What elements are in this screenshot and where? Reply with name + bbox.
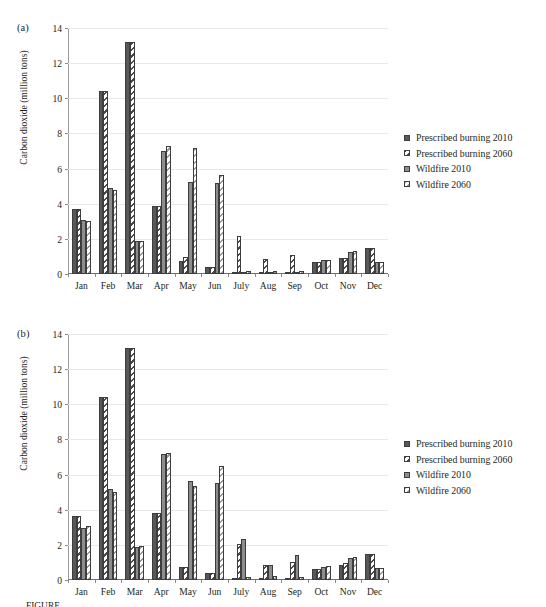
legend-swatch-icon — [404, 181, 410, 187]
y-axis-tick-label: 14 — [52, 23, 62, 34]
x-axis-tick-mark — [201, 274, 202, 277]
x-axis-tick-label: May — [179, 586, 197, 597]
bar — [166, 146, 171, 274]
x-axis-tick-label: Feb — [101, 586, 115, 597]
bar-group — [259, 334, 278, 580]
x-axis-tick-mark — [228, 580, 229, 583]
x-axis-tick-mark — [308, 580, 309, 583]
bar — [139, 546, 144, 580]
x-axis-tick-label: Oct — [314, 280, 328, 291]
x-axis-tick-label: Aug — [260, 586, 277, 597]
bar-group — [259, 28, 278, 274]
bar — [326, 260, 331, 274]
y-axis-tick-label: 10 — [52, 93, 62, 104]
bar-group — [99, 334, 118, 580]
legend-item[interactable]: Prescribed burning 2060 — [404, 452, 512, 468]
bars-layer-a — [68, 28, 388, 274]
bar — [379, 262, 384, 274]
bar — [219, 466, 224, 580]
bar — [130, 42, 135, 274]
bar — [86, 526, 91, 580]
bar — [139, 241, 144, 274]
bar — [237, 236, 242, 274]
y-axis-tick-label: 12 — [52, 364, 62, 375]
x-axis-tick-mark — [68, 274, 69, 277]
x-axis-tick-mark — [201, 580, 202, 583]
x-axis-tick-mark — [228, 274, 229, 277]
y-axis-tick-label: 2 — [57, 233, 62, 244]
y-axis-tick-label: 4 — [57, 504, 62, 515]
bar — [353, 557, 358, 580]
bar-group — [179, 28, 198, 274]
bar-group — [285, 334, 304, 580]
bar — [326, 566, 331, 580]
y-axis-tick-label: 0 — [57, 269, 62, 280]
bar-group — [232, 28, 251, 274]
bar — [379, 568, 384, 580]
bar — [113, 492, 118, 580]
x-axis-tick-mark — [361, 274, 362, 277]
x-axis-tick-label: Apr — [154, 586, 169, 597]
bar — [130, 348, 135, 580]
legend-item[interactable]: Wildfire 2010 — [404, 467, 512, 483]
x-axis-tick-label: Apr — [154, 280, 169, 291]
x-axis-tick-mark — [255, 580, 256, 583]
y-axis-tick-label: 6 — [57, 163, 62, 174]
legend-item[interactable]: Prescribed burning 2010 — [404, 436, 512, 452]
x-axis-tick-mark — [388, 274, 389, 277]
bar-group — [72, 334, 91, 580]
bar-group — [312, 334, 331, 580]
x-axis-tick-label: July — [233, 586, 249, 597]
bar — [193, 486, 198, 580]
legend-item[interactable]: Wildfire 2060 — [404, 177, 512, 193]
bar — [219, 175, 224, 274]
bar — [166, 453, 171, 580]
x-axis-tick-mark — [281, 274, 282, 277]
x-axis-tick-label: Aug — [260, 280, 277, 291]
bar-group — [72, 28, 91, 274]
legend-label: Wildfire 2060 — [416, 179, 471, 190]
legend-item[interactable]: Wildfire 2010 — [404, 161, 512, 177]
bar — [113, 190, 118, 274]
bar — [295, 555, 300, 580]
legend-label: Prescribed burning 2060 — [416, 148, 512, 159]
legend-label: Wildfire 2010 — [416, 469, 471, 480]
bar — [86, 221, 91, 274]
legend-label: Prescribed burning 2010 — [416, 438, 512, 449]
legend-label: Wildfire 2060 — [416, 485, 471, 496]
x-axis-tick-mark — [121, 274, 122, 277]
legend-swatch-icon — [404, 487, 410, 493]
x-axis-tick-mark — [148, 274, 149, 277]
x-axis-tick-label: Mar — [127, 280, 143, 291]
plot-area-b: 02468101214 JanFebMarAprMayJunJulyAugSep… — [68, 334, 388, 580]
y-axis-tick-label: 6 — [57, 469, 62, 480]
bar-group — [205, 28, 224, 274]
legend-label: Prescribed burning 2010 — [416, 132, 512, 143]
y-axis-tick-label: 8 — [57, 128, 62, 139]
legend-item[interactable]: Wildfire 2060 — [404, 483, 512, 499]
x-axis-tick-label: Nov — [340, 586, 357, 597]
x-axis-tick-label: Jan — [75, 280, 88, 291]
legend-label: Prescribed burning 2060 — [416, 454, 512, 465]
x-axis-tick-mark — [281, 580, 282, 583]
figure-container: (a) Carbon dioxide (million tons) 024681… — [0, 0, 546, 607]
bar-group — [205, 334, 224, 580]
x-axis-tick-mark — [335, 274, 336, 277]
bar-group — [365, 28, 384, 274]
x-axis-tick-label: May — [179, 280, 197, 291]
x-axis-tick-mark — [121, 580, 122, 583]
x-axis-tick-label: Sep — [287, 280, 301, 291]
y-axis-tick-label: 8 — [57, 434, 62, 445]
legend-swatch-icon — [404, 166, 410, 172]
x-axis-tick-label: Nov — [340, 280, 357, 291]
legend-item[interactable]: Prescribed burning 2060 — [404, 146, 512, 162]
legend-swatch-icon — [404, 135, 410, 141]
legend-b: Prescribed burning 2010Prescribed burnin… — [404, 436, 512, 498]
x-axis-tick-label: Feb — [101, 280, 115, 291]
x-axis-tick-mark — [255, 274, 256, 277]
legend-swatch-icon — [404, 456, 410, 462]
y-axis-tick-label: 10 — [52, 399, 62, 410]
x-axis-tick-mark — [95, 274, 96, 277]
x-axis-tick-label: Jun — [208, 586, 221, 597]
legend-item[interactable]: Prescribed burning 2010 — [404, 130, 512, 146]
